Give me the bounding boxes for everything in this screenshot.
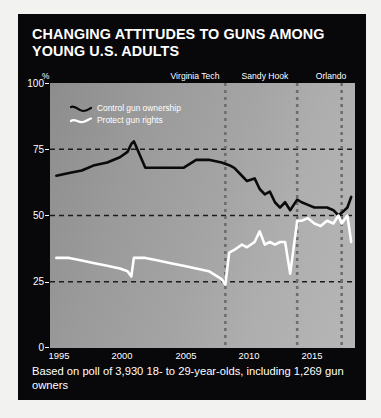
x-tick-2015: 2015 xyxy=(292,350,332,361)
x-tick-2010: 2010 xyxy=(229,350,269,361)
y-tick-mark-100 xyxy=(45,83,49,84)
chart-legend: Control gun ownership Protect gun rights xyxy=(70,102,181,126)
chart-caption: Based on poll of 3,930 18- to 29-year-ol… xyxy=(32,365,358,392)
series-line-protect xyxy=(56,216,351,285)
legend-item-protect: Protect gun rights xyxy=(70,114,181,126)
event-name: Sandy Hook xyxy=(242,71,289,81)
event-name: Virginia Tech xyxy=(171,71,220,81)
chart-card: CHANGING ATTITUDES TO GUNS AMONG YOUNG U… xyxy=(18,14,366,400)
y-tick-mark-50 xyxy=(45,215,49,216)
series-line-control xyxy=(56,141,351,215)
legend-item-control: Control gun ownership xyxy=(70,102,181,114)
legend-swatch-control-line xyxy=(70,104,92,113)
y-tick-50: 50 xyxy=(20,210,44,221)
y-tick-mark-0 xyxy=(45,347,49,348)
y-tick-mark-75 xyxy=(45,149,49,150)
x-tick-2000: 2000 xyxy=(102,350,142,361)
legend-label-control: Control gun ownership xyxy=(97,103,181,113)
y-tick-100: 100 xyxy=(20,78,44,89)
legend-swatch-protect-line xyxy=(70,116,92,125)
x-tick-2005: 2005 xyxy=(166,350,206,361)
legend-label-protect: Protect gun rights xyxy=(97,115,163,125)
y-tick-25: 25 xyxy=(20,276,44,287)
event-name: Orlando xyxy=(316,71,347,81)
page-title: CHANGING ATTITUDES TO GUNS AMONG YOUNG U… xyxy=(32,26,352,59)
y-tick-mark-25 xyxy=(45,282,49,283)
y-tick-75: 75 xyxy=(20,144,44,155)
x-tick-1995: 1995 xyxy=(39,350,79,361)
